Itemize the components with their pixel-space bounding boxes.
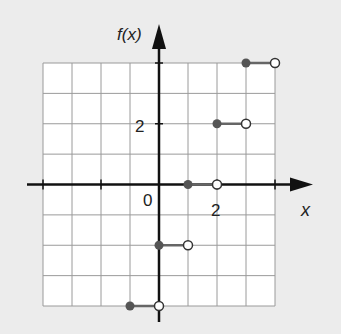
origin-label: 0 (143, 191, 152, 210)
closed-point (213, 119, 222, 128)
x-axis-arrow-icon (290, 178, 313, 192)
open-point (213, 180, 222, 189)
open-point (242, 119, 251, 128)
closed-point (126, 302, 135, 311)
open-point (184, 241, 193, 250)
y-axis-arrow-icon (152, 24, 166, 49)
open-point (155, 302, 164, 311)
step-function-graph: f(x) x 0 2 2 (0, 0, 341, 334)
closed-point (155, 241, 164, 250)
closed-point (184, 180, 193, 189)
y-axis-label: f(x) (117, 25, 142, 44)
open-point (271, 59, 280, 68)
y-tick-label-2: 2 (135, 117, 144, 136)
x-axis-label: x (300, 200, 311, 220)
x-tick-label-2: 2 (211, 201, 220, 220)
closed-point (242, 59, 251, 68)
